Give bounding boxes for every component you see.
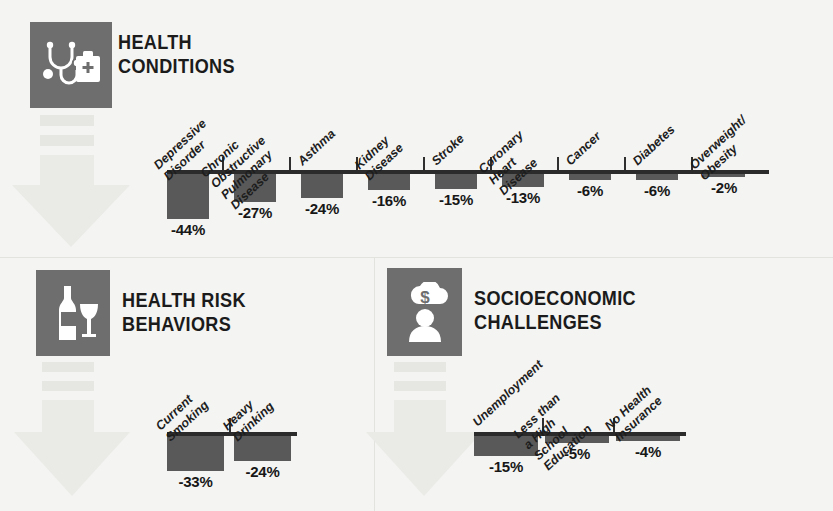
wine-bottle-glass-icon [36, 270, 110, 356]
bar-value-label: -6% [624, 182, 690, 199]
bar-value-label: -6% [557, 182, 623, 199]
person-money-thought-icon: $ [387, 268, 462, 356]
bar-value-label: -24% [289, 200, 355, 217]
section-title-health-risk-behaviors: HEALTH RISK BEHAVIORS [122, 288, 294, 335]
bar-value-label: -4% [604, 443, 692, 460]
bar [301, 174, 343, 198]
axis-tick [423, 157, 425, 170]
panel-health-conditions: HEALTH CONDITIONS -44%Depressive Disorde… [0, 0, 833, 258]
bar-value-label: -15% [423, 191, 489, 208]
bar [435, 174, 477, 189]
bar-value-label: -44% [155, 221, 221, 238]
bar-value-label: -2% [691, 179, 757, 196]
section-title-health-conditions: HEALTH CONDITIONS [118, 30, 273, 77]
category-label: Coronary Heart Disease [476, 128, 547, 198]
category-label: Asthma [295, 127, 339, 169]
axis-tick [289, 157, 291, 170]
section-title-socioeconomic-challenges: SOCIOECONOMIC CHALLENGES [474, 286, 689, 333]
category-label: Cancer [563, 129, 604, 169]
panel-health-risk-behaviors: HEALTH RISK BEHAVIORS -33%Current Smokin… [0, 258, 374, 511]
svg-text:$: $ [420, 288, 430, 307]
category-label: Stroke [429, 131, 468, 168]
bar [636, 174, 678, 180]
infographic-canvas: HEALTH CONDITIONS -44%Depressive Disorde… [0, 0, 833, 511]
bar [569, 174, 611, 180]
category-label: Diabetes [630, 122, 678, 168]
stethoscope-first-aid-kit-icon [30, 22, 112, 108]
bar-value-label: -16% [356, 192, 422, 209]
down-arrow-watermark [14, 362, 132, 500]
down-arrow-watermark [366, 362, 484, 500]
axis-tick [624, 157, 626, 170]
panel-socioeconomic-challenges: $ SOCIOECONOMIC CHALLENGES -15%Unemploym… [374, 258, 833, 511]
bar-value-label: -24% [222, 463, 303, 480]
axis-tick [557, 157, 559, 170]
down-arrow-watermark [12, 115, 130, 250]
